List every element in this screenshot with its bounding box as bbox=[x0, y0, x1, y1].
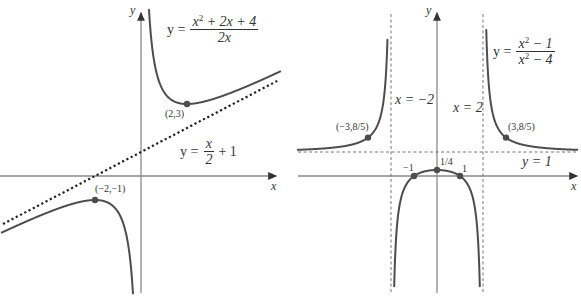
point-label-neg3-8-5: (−3,8/5) bbox=[336, 121, 369, 132]
left-graph bbox=[0, 10, 280, 294]
asymptote-label-x-neg2: x = −2 bbox=[395, 92, 434, 108]
point-neg1-0 bbox=[411, 173, 417, 179]
equation-denominator: 2x bbox=[216, 30, 233, 45]
point-3-8-5 bbox=[503, 134, 509, 140]
equation-lhs: y = bbox=[167, 22, 185, 38]
point-label-3-8-5: (3,8/5) bbox=[508, 121, 535, 132]
oblique-asymptote-equation: y = x 2 + 1 bbox=[180, 136, 237, 167]
left-function-equation: y = x2 + 2x + 4 2x bbox=[167, 14, 258, 45]
asymptote-numerator: x bbox=[204, 136, 214, 152]
asymptote-label-y-1: y = 1 bbox=[522, 154, 552, 170]
point-label-1: 1 bbox=[462, 163, 467, 174]
asymptote-denominator: 2 bbox=[203, 152, 214, 167]
point-neg3-8-5 bbox=[365, 134, 371, 140]
point-2-3 bbox=[184, 101, 190, 107]
point-label-neg1: −1 bbox=[403, 162, 414, 173]
asymptote-tail: + 1 bbox=[218, 144, 236, 160]
asymptote-lhs: y = bbox=[180, 144, 198, 160]
equation-numerator: x2 + 2x + 4 bbox=[190, 14, 258, 30]
point-0-1-4 bbox=[434, 167, 440, 173]
point-label-2-3: (2,3) bbox=[165, 108, 184, 119]
left-x-axis-label: x bbox=[271, 179, 276, 194]
right-x-axis-label: x bbox=[571, 179, 576, 194]
point-label-neg2-neg1: (−2,−1) bbox=[95, 183, 125, 194]
point-neg2-neg1 bbox=[92, 197, 98, 203]
right-curve-left-branch bbox=[298, 40, 388, 150]
equation-lhs: y = bbox=[493, 44, 511, 60]
equation-denominator: x2 − 4 bbox=[516, 52, 554, 67]
asymptote-label-x-2: x = 2 bbox=[453, 100, 483, 116]
equation-numerator: x2 − 1 bbox=[516, 36, 554, 52]
point-label-1-4: 1/4 bbox=[440, 156, 453, 167]
left-y-axis-label: y bbox=[130, 3, 135, 18]
right-y-axis-label: y bbox=[426, 3, 431, 18]
right-function-equation: y = x2 − 1 x2 − 4 bbox=[493, 36, 555, 67]
